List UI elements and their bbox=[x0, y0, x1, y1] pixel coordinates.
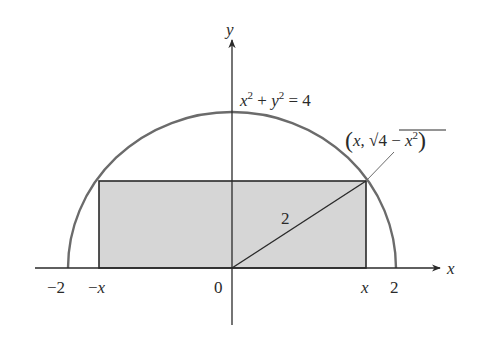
tick-label-two: 2 bbox=[390, 278, 399, 297]
y-axis-label: y bbox=[224, 20, 234, 39]
semicircle-rectangle-diagram: y x x2 + y2 = 4 (x, √4 − x2) 2 −2 −x 0 x… bbox=[0, 0, 485, 338]
curve-equation-label: x2 + y2 = 4 bbox=[239, 89, 311, 110]
corner-point-label: (x, √4 − x2) bbox=[345, 127, 426, 153]
tick-label-x: x bbox=[360, 278, 369, 297]
radius-label: 2 bbox=[281, 209, 290, 228]
point-leader-line bbox=[366, 152, 394, 181]
tick-label-origin: 0 bbox=[214, 278, 223, 297]
tick-label-neg-x: −x bbox=[88, 278, 106, 297]
x-axis-label: x bbox=[446, 259, 455, 278]
tick-label-neg-two: −2 bbox=[47, 278, 65, 297]
